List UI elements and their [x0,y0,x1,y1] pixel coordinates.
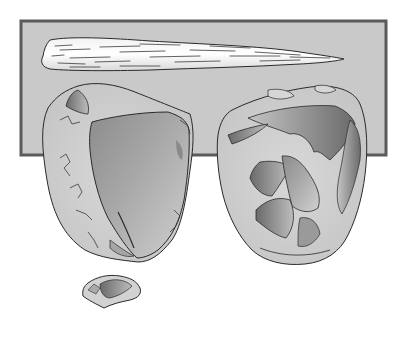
small-flake [83,275,141,308]
hand-axe-front [43,84,193,262]
stone-tools-illustration [0,0,400,344]
hand-axe-reverse [217,85,367,264]
